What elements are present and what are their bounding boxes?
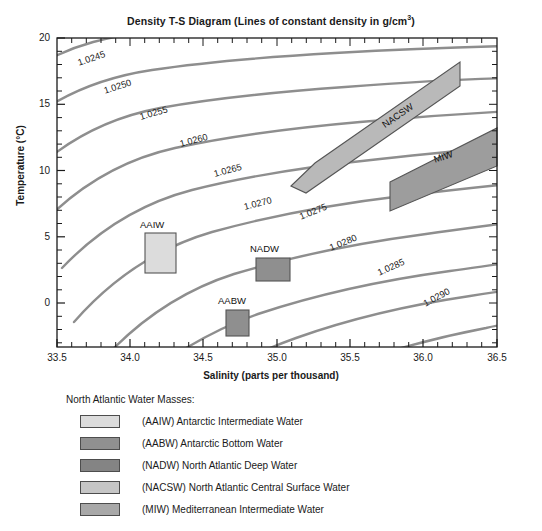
water-mass-box-aaiw: [145, 233, 176, 273]
x-tick-label-5: 36.0: [403, 352, 443, 363]
isopycnal-1-0285: [152, 288, 528, 408]
legend-item-nacsw[interactable]: (NACSW) North Atlantic Central Surface W…: [66, 478, 486, 496]
legend-title: North Atlantic Water Masses:: [66, 394, 486, 405]
y-minor-ticks: [57, 51, 62, 343]
x-tick-label-6: 36.5: [477, 352, 517, 363]
legend-label-miw: (MIW) Mediterranean Intermediate Water: [142, 504, 324, 515]
y-tick-label-0: 0: [26, 297, 50, 308]
legend-item-aabw[interactable]: (AABW) Antarctic Bottom Water: [66, 434, 486, 452]
legend-swatch-aabw: [80, 437, 120, 450]
x-tick-label-1: 34.0: [110, 352, 150, 363]
plot-label-nadw: NADW: [250, 243, 279, 254]
legend-item-miw[interactable]: (MIW) Mediterranean Intermediate Water: [66, 500, 486, 518]
legend-label-nadw: (NADW) North Atlantic Deep Water: [142, 460, 297, 471]
y-tick-label-20: 20: [26, 32, 50, 43]
x-axis-label: Salinity (parts per thousand): [0, 370, 542, 381]
y-tick-label-5: 5: [26, 231, 50, 242]
x-tick-label-2: 34.5: [183, 352, 223, 363]
density-ts-diagram: Density T-S Diagram (Lines of constant d…: [0, 0, 542, 531]
legend: North Atlantic Water Masses: (AAIW) Anta…: [66, 394, 486, 522]
y-tick-label-10: 10: [26, 165, 50, 176]
water-mass-band-miw: [390, 128, 497, 211]
legend-item-nadw[interactable]: (NADW) North Atlantic Deep Water: [66, 456, 486, 474]
x-top-ticks: [72, 38, 482, 46]
y-tick-label-15: 15: [26, 98, 50, 109]
y-axis-label: Temperature (°C): [15, 86, 26, 246]
legend-swatch-nacsw: [80, 481, 120, 494]
legend-swatch-nadw: [80, 459, 120, 472]
x-tick-label-0: 33.5: [37, 352, 77, 363]
legend-item-aaiw[interactable]: (AAIW) Antarctic Intermediate Water: [66, 412, 486, 430]
x-tick-label-3: 35.0: [257, 352, 297, 363]
legend-label-aabw: (AABW) Antarctic Bottom Water: [142, 438, 283, 449]
legend-label-nacsw: (NACSW) North Atlantic Central Surface W…: [142, 482, 349, 493]
legend-swatch-miw: [80, 503, 120, 516]
legend-label-aaiw: (AAIW) Antarctic Intermediate Water: [142, 416, 303, 427]
y-right-ticks: [489, 51, 497, 343]
plot-label-aabw: AABW: [218, 295, 246, 306]
legend-swatch-aaiw: [80, 415, 120, 428]
water-mass-box-nadw: [256, 258, 290, 281]
x-tick-label-4: 35.5: [330, 352, 370, 363]
water-mass-box-aabw: [226, 310, 249, 336]
plot-label-aaiw: AAIW: [140, 219, 164, 230]
